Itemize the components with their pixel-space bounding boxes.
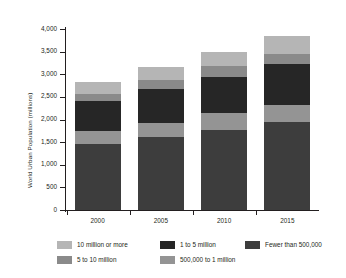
bar-segment (138, 67, 184, 80)
x-tick-label: 2015 (257, 218, 317, 224)
y-tick-mark (60, 210, 65, 211)
y-tick-mark (60, 74, 65, 75)
x-tick-mark (130, 211, 131, 215)
legend-label: 500,000 to 1 million (180, 255, 235, 265)
bar-segment (264, 64, 310, 105)
y-tick-label: 2,500 (0, 93, 57, 99)
y-tick-label: 2,000 (0, 116, 57, 122)
chart-legend: 10 million or more1 to 5 millionFewer th… (0, 240, 346, 274)
y-tick-mark (60, 142, 65, 143)
y-tick-label: 1,500 (0, 139, 57, 145)
x-tick-mark (256, 211, 257, 215)
legend-swatch (160, 241, 175, 249)
x-tick-label: 2010 (194, 218, 254, 224)
bar-segment (201, 77, 247, 113)
bar-2010 (201, 29, 247, 210)
bar-segment (264, 105, 310, 122)
y-tick-mark (60, 97, 65, 98)
bar-segment (264, 122, 310, 210)
legend-swatch (160, 256, 175, 264)
bar-2000 (75, 29, 121, 210)
x-axis-line (65, 210, 319, 211)
y-tick-label: 1,000 (0, 161, 57, 167)
bar-segment (75, 94, 121, 101)
y-tick-mark (60, 165, 65, 166)
x-tick-mark (193, 211, 194, 215)
bar-segment (138, 80, 184, 90)
bar-segment (264, 36, 310, 54)
bar-2005 (138, 29, 184, 210)
bar-segment (201, 66, 247, 77)
legend-label: 5 to 10 million (77, 255, 116, 265)
bar-segment (75, 131, 121, 145)
legend-label: 10 million or more (77, 240, 128, 250)
y-tick-mark (60, 187, 65, 188)
bar-segment (138, 123, 184, 137)
bar-segment (201, 130, 247, 210)
bar-segment (138, 137, 184, 210)
bar-2015 (264, 29, 310, 210)
x-tick-label: 2005 (131, 218, 191, 224)
x-tick-label: 2000 (68, 218, 128, 224)
legend-swatch (57, 256, 72, 264)
bar-segment (201, 52, 247, 66)
y-tick-label: 500 (0, 184, 57, 190)
bar-segment (201, 113, 247, 130)
y-tick-mark (60, 52, 65, 53)
plot-area (66, 29, 319, 210)
y-tick-label: 3,000 (0, 71, 57, 77)
bar-segment (75, 82, 121, 94)
legend-label: Fewer than 500,000 (265, 240, 322, 250)
y-tick-label: 4,000 (0, 26, 57, 32)
legend-label: 1 to 5 million (180, 240, 216, 250)
y-tick-label: 0 (0, 207, 57, 213)
y-tick-label: 3,500 (0, 48, 57, 54)
bar-segment (138, 89, 184, 122)
legend-swatch (57, 241, 72, 249)
bar-segment (75, 144, 121, 210)
legend-swatch (245, 241, 260, 249)
x-tick-mark (67, 211, 68, 215)
y-tick-mark (60, 29, 65, 30)
chart-figure: World Urban Population (millions) 05001,… (0, 0, 346, 278)
bar-segment (75, 101, 121, 131)
y-tick-mark (60, 120, 65, 121)
bar-segment (264, 54, 310, 64)
